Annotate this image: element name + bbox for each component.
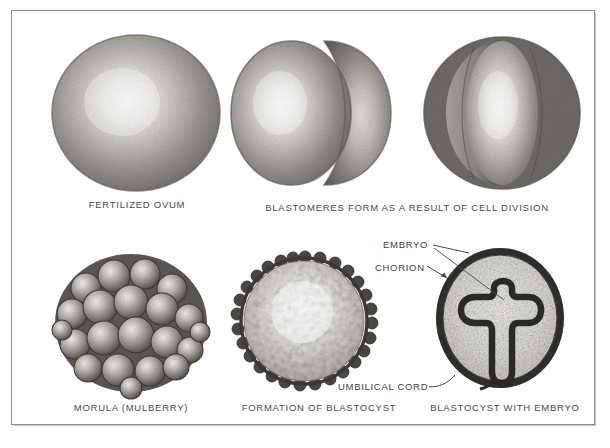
annotation-chorion: CHORION [375,262,425,273]
leader-line-umbilical-cord [429,372,461,392]
figure-blastocyst-formation [232,252,378,392]
annotation-embryo: EMBRYO [383,239,428,250]
figure-fertilized-ovum [48,32,224,194]
caption-blastocyst-with-embryo: BLASTOCYST WITH EMBRYO [410,402,600,413]
caption-fertilized-ovum: FERTILIZED OVUM [37,199,237,210]
caption-morula: MORULA (MULBERRY) [41,402,221,413]
leader-line-embryo [433,243,473,257]
caption-blastocyst-formation: FORMATION OF BLASTOCYST [224,402,414,413]
caption-blastomeres: BLASTOMERES FORM AS A RESULT OF CELL DIV… [232,202,582,213]
figure-four-cell-stage [418,33,586,193]
figure-morula [52,252,210,394]
illustration-plate: FERTILIZED OVUM [0,0,610,448]
leader-line-chorion [427,265,455,283]
figure-two-cell-stage [228,33,400,193]
annotation-umbilical-cord: UMBILICAL CORD [338,381,428,392]
